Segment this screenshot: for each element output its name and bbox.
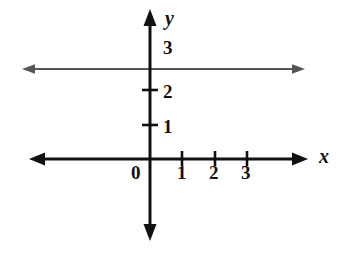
y-tick-label-1: 1 xyxy=(163,117,173,136)
x-tick-label-2: 2 xyxy=(209,163,219,182)
y-tick-label-3: 3 xyxy=(163,38,173,57)
x-axis xyxy=(29,151,308,166)
x-tick-label-3: 3 xyxy=(241,163,251,182)
y-axis-bottom-arrowhead xyxy=(144,224,157,241)
x-tick-label-1: 1 xyxy=(177,163,187,182)
x-axis-name: x xyxy=(319,146,329,166)
horizontal-line-right-arrowhead xyxy=(292,64,305,74)
coordinate-plane-figure: 0 1 2 3 1 2 3 y x xyxy=(0,0,346,256)
y-tick-label-2: 2 xyxy=(163,82,173,101)
x-axis-right-arrowhead xyxy=(292,153,308,166)
x-axis-left-arrowhead xyxy=(29,153,45,166)
plot-svg xyxy=(0,0,346,256)
y-axis-name: y xyxy=(165,8,174,28)
horizontal-line-left-arrowhead xyxy=(22,64,35,74)
graphed-horizontal-line xyxy=(22,64,305,74)
x-tick-label-0: 0 xyxy=(131,163,141,182)
y-axis xyxy=(142,9,158,241)
y-axis-top-arrowhead xyxy=(144,9,157,26)
